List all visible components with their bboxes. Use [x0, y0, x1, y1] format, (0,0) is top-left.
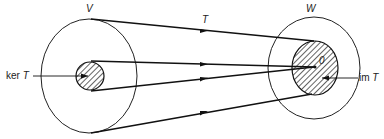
image-label-prefix: im — [359, 72, 370, 83]
zero-label: 0 — [319, 56, 325, 66]
set-w-label: W — [306, 4, 315, 14]
kernel-label: ker T — [6, 71, 29, 81]
image-label-var: T — [372, 72, 378, 83]
image-label: im T — [359, 73, 378, 83]
zero-vector-dot — [314, 66, 317, 69]
kernel-label-prefix: ker — [6, 70, 20, 81]
mapping-arrows — [91, 19, 314, 133]
map-t-label: T — [202, 15, 208, 25]
diagram-canvas — [0, 0, 384, 139]
set-v-label: V — [86, 4, 93, 14]
kernel-label-var: T — [23, 70, 29, 81]
